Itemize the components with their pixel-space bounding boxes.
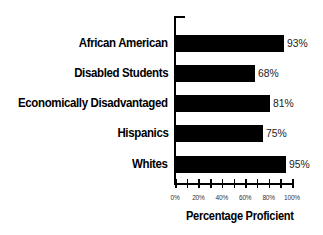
x-tick-label: 20% — [192, 194, 204, 201]
bar-chart: 0% 20% 40% 60% 80% 100% African American… — [0, 0, 323, 235]
bar — [175, 156, 286, 173]
x-tick-mark — [257, 179, 259, 188]
x-tick-label: 80% — [262, 194, 274, 201]
x-tick-mark — [269, 179, 271, 188]
x-tick-mark — [210, 179, 212, 188]
x-tick-mark — [292, 179, 294, 188]
category-label: African American — [79, 36, 168, 50]
x-tick-mark — [187, 179, 189, 188]
bar — [175, 35, 284, 52]
x-tick-label: 60% — [239, 194, 251, 201]
x-tick-mark — [222, 179, 224, 188]
x-tick-mark — [234, 179, 236, 188]
x-axis-title: Percentage Proficient — [186, 209, 294, 223]
x-tick-label: 100% — [284, 194, 300, 201]
value-label: 75% — [266, 127, 287, 139]
y-axis-cap — [174, 16, 185, 18]
x-tick-label: 40% — [216, 194, 228, 201]
category-label: Hispanics — [117, 126, 168, 140]
bar — [175, 125, 263, 142]
value-label: 95% — [289, 158, 310, 170]
value-label: 68% — [258, 67, 279, 79]
x-tick-mark — [175, 179, 177, 188]
category-label: Disabled Students — [74, 66, 168, 80]
x-tick-mark — [245, 179, 247, 188]
x-tick-mark — [198, 179, 200, 188]
x-tick-mark — [280, 179, 282, 188]
value-label: 93% — [287, 37, 308, 49]
x-tick-label: 0% — [171, 194, 180, 201]
bar — [175, 65, 255, 82]
bar — [175, 95, 270, 112]
category-label: Economically Disadvantaged — [18, 96, 168, 110]
value-label: 81% — [273, 97, 294, 109]
category-label: Whites — [133, 157, 168, 171]
